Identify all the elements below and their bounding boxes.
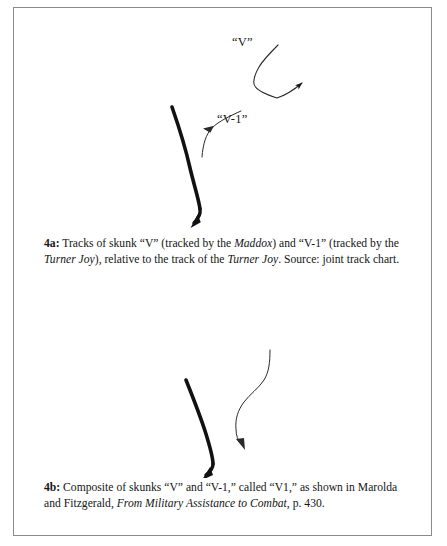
figure-frame: “V” “V-1” 4a: Tracks of skunk “V” (track… [13,7,432,536]
caption-4b-italic-title: From Military Assistance to Combat [117,497,287,510]
caption-4a-italic-maddox: Maddox [234,237,272,250]
figure-4b-drawing [14,258,431,478]
track-label-v: “V” [232,36,253,49]
caption-4a-number: 4a: [44,237,60,250]
track-v1-path [236,350,270,450]
caption-4b-seg2: , p. 430. [287,497,325,510]
track-turner-joy-thick-4b [186,380,213,478]
caption-4a-seg1: Tracks of skunk “V” (tracked by the [60,237,235,250]
caption-4b-number: 4b: [44,481,60,494]
track-v-path [254,45,302,98]
caption-figure-4b: 4b: Composite of skunks “V” and “V-1,” c… [44,480,412,513]
track-turner-joy-thick-4a [172,107,201,228]
page-canvas: “V” “V-1” 4a: Tracks of skunk “V” (track… [0,0,447,546]
figure-4a-plate: “V” “V-1” [14,8,431,230]
caption-4a-seg2: ) and “V-1” (tracked by the [272,237,399,250]
figure-4b-plate: “V1” [14,258,431,478]
track-label-v-minus-1: “V-1” [217,113,247,126]
